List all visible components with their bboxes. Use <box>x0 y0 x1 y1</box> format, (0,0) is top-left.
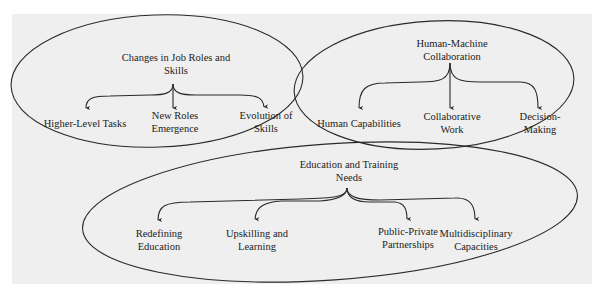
node-line: Public-Private <box>378 226 438 239</box>
node-collaborative-work: Collaborative Work <box>423 111 480 136</box>
node-line: Work <box>423 124 480 137</box>
node-line: Emergence <box>151 123 198 136</box>
group-title-job-roles: Changes in Job Roles and Skills <box>122 52 231 77</box>
node-higher-level-tasks: Higher-Level Tasks <box>44 118 127 131</box>
title-line: Needs <box>300 172 399 185</box>
title-line: Education and Training <box>300 159 399 172</box>
node-line: Multidisciplinary <box>440 228 513 241</box>
node-human-capabilities: Human Capabilities <box>317 118 401 131</box>
group-title-human-machine: Human-Machine Collaboration <box>416 38 487 63</box>
title-line: Changes in Job Roles and <box>122 52 231 65</box>
node-line: Higher-Level Tasks <box>44 118 127 131</box>
node-multidisciplinary-capacities: Multidisciplinary Capacities <box>440 228 513 253</box>
node-upskilling-and-learning: Upskilling and Learning <box>226 228 288 253</box>
node-decision-making: Decision- Making <box>520 111 561 136</box>
education-arrows <box>158 188 475 220</box>
node-new-roles-emergence: New Roles Emergence <box>151 110 198 135</box>
job-roles-arrows <box>86 84 264 108</box>
node-line: Learning <box>226 241 288 254</box>
node-line: Evolution of <box>240 110 293 123</box>
node-line: Upskilling and <box>226 228 288 241</box>
node-line: Decision- <box>520 111 561 124</box>
node-line: Partnerships <box>378 239 438 252</box>
title-line: Human-Machine <box>416 38 487 51</box>
node-line: Redefining <box>136 228 183 241</box>
title-line: Skills <box>122 65 231 78</box>
title-line: Collaboration <box>416 51 487 64</box>
human-machine-arrows <box>359 63 538 108</box>
ellipse-education <box>78 127 582 296</box>
node-line: Human Capabilities <box>317 118 401 131</box>
node-line: Making <box>520 124 561 137</box>
node-line: Capacities <box>440 241 513 254</box>
venn-diagram <box>0 0 603 296</box>
node-public-private-partnerships: Public-Private Partnerships <box>378 226 438 251</box>
node-line: Collaborative <box>423 111 480 124</box>
node-line: Education <box>136 241 183 254</box>
node-evolution-of-skills: Evolution of Skills <box>240 110 293 135</box>
node-line: New Roles <box>151 110 198 123</box>
node-redefining-education: Redefining Education <box>136 228 183 253</box>
group-title-education: Education and Training Needs <box>300 159 399 184</box>
node-line: Skills <box>240 123 293 136</box>
